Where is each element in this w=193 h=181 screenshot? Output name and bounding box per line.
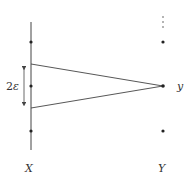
ellipsis-dot-3 bbox=[162, 26, 164, 28]
y-axis-label: Y bbox=[158, 162, 167, 175]
diagram-canvas: 2ε y X Y bbox=[0, 0, 193, 181]
ellipsis-dot-2 bbox=[162, 21, 164, 23]
y-point-target bbox=[161, 84, 165, 88]
ellipsis-dot-1 bbox=[162, 16, 164, 18]
x-point-top bbox=[29, 40, 32, 43]
interval-label: 2ε bbox=[6, 80, 19, 93]
x-point-bottom bbox=[29, 129, 32, 132]
y-point-top bbox=[161, 40, 164, 43]
y-point-bottom bbox=[161, 129, 164, 132]
point-y-label: y bbox=[176, 80, 184, 93]
lower-cone-line bbox=[31, 86, 163, 108]
x-point-middle bbox=[29, 84, 32, 87]
x-axis-label: X bbox=[24, 162, 34, 175]
upper-cone-line bbox=[31, 64, 163, 86]
